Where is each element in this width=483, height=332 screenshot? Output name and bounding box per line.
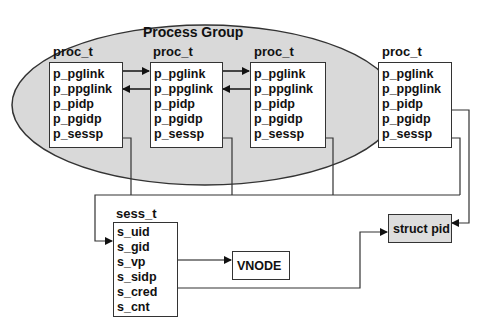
field-p-ppglink: p_ppglink — [379, 82, 451, 97]
field-s-sidp: s_sidp — [114, 270, 177, 285]
field-p-pidp: p_pidp — [379, 97, 451, 112]
field-p-pidp: p_pidp — [50, 97, 122, 112]
field-s-cred: s_cred — [114, 285, 177, 300]
field-p-pgidp: p_pgidp — [251, 112, 325, 127]
field-p-ppglink: p_ppglink — [50, 82, 122, 97]
field-p-sessp: p_sessp — [379, 127, 451, 142]
proc-type-label: proc_t — [53, 44, 93, 59]
vnode-label: VNODE — [237, 259, 281, 273]
struct-pid-label: struct pid — [393, 222, 450, 236]
field-p-pglink: p_pglink — [379, 67, 451, 82]
field-p-pgidp: p_pgidp — [50, 112, 122, 127]
proc-struct-2: p_pglink p_ppglink p_pidp p_pgidp p_sess… — [150, 62, 223, 148]
proc-struct-3: p_pglink p_ppglink p_pidp p_pgidp p_sess… — [250, 62, 326, 148]
struct-pid-box: struct pid — [388, 214, 452, 243]
field-p-sessp: p_sessp — [50, 127, 122, 142]
field-p-ppglink: p_ppglink — [151, 82, 222, 97]
field-s-cnt: s_cnt — [114, 300, 177, 315]
field-p-pglink: p_pglink — [50, 67, 122, 82]
field-s-gid: s_gid — [114, 240, 177, 255]
field-p-pglink: p_pglink — [251, 67, 325, 82]
field-p-ppglink: p_ppglink — [251, 82, 325, 97]
field-p-pgidp: p_pgidp — [379, 112, 451, 127]
field-p-sessp: p_sessp — [251, 127, 325, 142]
sess-type-label: sess_t — [116, 206, 156, 221]
field-p-pgidp: p_pgidp — [151, 112, 222, 127]
field-p-pidp: p_pidp — [251, 97, 325, 112]
sess-struct: s_uid s_gid s_vp s_sidp s_cred s_cnt — [113, 222, 178, 317]
proc-struct-1: p_pglink p_ppglink p_pidp p_pgidp p_sess… — [49, 62, 123, 148]
field-p-pglink: p_pglink — [151, 67, 222, 82]
field-p-sessp: p_sessp — [151, 127, 222, 142]
process-group-title: Process Group — [143, 24, 243, 40]
vnode-box: VNODE — [232, 251, 290, 280]
field-s-vp: s_vp — [114, 255, 177, 270]
proc-type-label: proc_t — [382, 44, 422, 59]
proc-struct-4: p_pglink p_ppglink p_pidp p_pgidp p_sess… — [378, 62, 452, 148]
proc-type-label: proc_t — [254, 44, 294, 59]
field-s-uid: s_uid — [114, 225, 177, 240]
sessp-line-4 — [451, 138, 460, 195]
proc-type-label: proc_t — [153, 44, 193, 59]
field-p-pidp: p_pidp — [151, 97, 222, 112]
